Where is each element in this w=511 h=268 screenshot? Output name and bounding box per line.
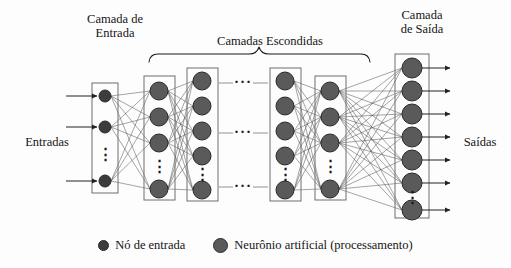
connection-line: [294, 91, 321, 106]
legend-item-input-node: Nó de entrada: [98, 238, 185, 253]
neuron-node: [402, 127, 422, 147]
connection-line: [339, 91, 402, 183]
neuron-node: [193, 122, 211, 140]
legend: Nó de entrada Neurônio artificial (proce…: [0, 234, 511, 256]
connection-line: [168, 189, 193, 190]
vertical-ellipsis: ⋮: [323, 158, 338, 174]
horizontal-ellipsis: ···: [234, 178, 252, 194]
neuron-node: [402, 58, 422, 78]
connection-line: [339, 183, 402, 189]
connection-line: [339, 143, 402, 210]
vertical-ellipsis: ⋮: [405, 189, 420, 205]
input-node: [99, 121, 111, 133]
horizontal-ellipsis: ···: [234, 124, 252, 140]
neuron-node: [193, 181, 211, 199]
neuron-node: [193, 97, 211, 115]
connection-line: [339, 114, 402, 117]
hidden-layers-brace: [149, 47, 370, 62]
neuron-node: [150, 82, 168, 100]
connection-line: [339, 91, 402, 114]
ellipsis-marks: ⋮⋮⋮⋮⋮⋮·········: [98, 74, 420, 205]
neuron-node: [150, 180, 168, 198]
connection-line: [339, 117, 402, 210]
vertical-ellipsis: ⋮: [152, 158, 167, 174]
layer-boxes: [92, 54, 429, 218]
neuron-node: [276, 181, 294, 199]
neuron-node: [276, 147, 294, 165]
brace-path: [149, 47, 370, 62]
neuron-node: [321, 108, 339, 126]
neuron-node: [402, 150, 422, 170]
neuron-node: [402, 81, 422, 101]
connection-line: [339, 91, 402, 137]
legend-label-input-node: Nó de entrada: [115, 238, 185, 253]
io-arrows: [66, 68, 450, 210]
neuron-node: [276, 72, 294, 90]
connection-line: [294, 117, 321, 190]
vertical-ellipsis: ⋮: [98, 146, 113, 162]
connection-line: [294, 189, 321, 190]
input-node: [99, 175, 111, 187]
input-node-marker-icon: [98, 240, 109, 251]
neuron-node: [321, 134, 339, 152]
connection-line: [168, 91, 193, 156]
neuron-node: [321, 180, 339, 198]
connection-line: [294, 91, 321, 190]
legend-item-neuron: Neurônio artificial (processamento): [213, 238, 412, 253]
horizontal-ellipsis: ···: [234, 74, 252, 90]
legend-label-neuron: Neurônio artificial (processamento): [234, 238, 412, 253]
network-graphics: ⋮⋮⋮⋮⋮⋮·········: [0, 0, 511, 268]
neural-network-diagram: Camada de Entrada Camadas Escondidas Cam…: [0, 0, 511, 268]
vertical-ellipsis: ⋮: [278, 166, 293, 182]
neuron-node: [402, 104, 422, 124]
neuron-node: [276, 122, 294, 140]
connection-line: [339, 91, 402, 117]
vertical-ellipsis: ⋮: [195, 166, 210, 182]
layer-nodes: [99, 58, 422, 220]
connection-line: [339, 68, 402, 117]
connection-line: [168, 106, 193, 189]
connection-line: [168, 91, 193, 106]
connection-line: [168, 91, 193, 190]
connection-line: [294, 91, 321, 156]
connection-line: [294, 106, 321, 189]
neuron-marker-icon: [213, 238, 228, 253]
neuron-node: [321, 82, 339, 100]
input-node: [99, 90, 111, 102]
connection-line: [339, 137, 402, 189]
neuron-node: [193, 147, 211, 165]
connection-line: [168, 117, 193, 190]
neuron-node: [276, 97, 294, 115]
neuron-node: [150, 108, 168, 126]
connection-line: [339, 68, 402, 189]
neuron-node: [150, 134, 168, 152]
neuron-node: [193, 72, 211, 90]
connection-line: [339, 91, 402, 143]
